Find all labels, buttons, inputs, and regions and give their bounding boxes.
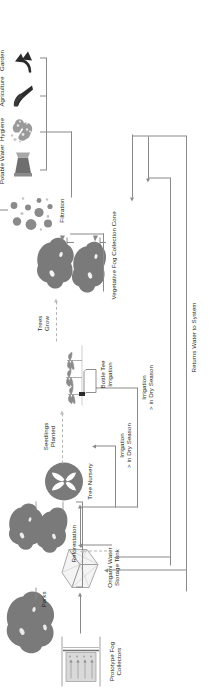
irrigation-branch-2 [137,387,138,507]
label-vegetative-cone: Vegetative Fog Collection Cone [110,191,117,299]
filtration-feed-inner [148,136,149,178]
system-flow-diagram: Prototype Fog Collectors Origami Water S… [0,0,212,697]
group-bracket-stem [82,544,112,545]
flow-tank-to-nursery [80,507,81,547]
arrow-grow-to-reforestation [78,543,82,547]
group-bracket-stem-dashed [84,550,112,551]
label-trees-grow: Trees Grow [36,301,51,345]
washing-hands-icon [10,115,36,143]
arrow-irrigation-1 [92,444,96,448]
label-returns-water: Returns Water to System [190,277,197,397]
flow-seedlings-planted [62,413,63,463]
irrigation-branch-1 [115,445,116,507]
arrow-seedlings-planted [60,410,64,414]
label-bottle-tee: Bottle Tee Irrigation [99,347,114,401]
tree-nursery-seedling-icon [44,461,84,501]
return-line-outer-drop [108,569,186,570]
enduse-icon-agriculture [12,81,34,107]
vegetative-fog-cone-tree-icon [34,233,108,299]
distribution-bracket [46,57,47,170]
distribution-tick-garden [40,57,46,58]
arrow-return-to-tank-outer [104,568,108,572]
enduse-icon-potable-water [12,151,34,177]
node-bottle-tee-irrigation [46,343,98,407]
node-parks [4,587,66,657]
diagram-rotation-frame: Prototype Fog Collectors Origami Water S… [0,0,212,697]
flow-trees-grow [56,301,57,341]
label-filtration: Filtration [58,175,65,245]
distribution-tick-agriculture [40,95,46,96]
arrow-return-to-tank-inner [114,555,118,559]
filtration-feed-outer [132,135,133,197]
label-parks: Parks [40,579,47,619]
return-line-inner [170,177,171,565]
return-line-outer [186,135,187,591]
arrow-filtration-feed-inner [146,178,150,182]
reforestation-trees-icon [6,501,68,557]
group-bracket-left-tick [76,586,82,587]
enduse-icon-hygiene [10,115,36,143]
bottle-tee-irrigation-icon [46,343,98,407]
return-line-outer-riser [132,135,186,136]
label-tree-nursery: Tree Nursery [86,451,93,511]
distribution-bracket-stem [46,131,72,132]
watering-sprout-icon [12,47,34,73]
irrigation-1-riser [96,445,115,446]
label-storage-tank: Origami Water Storage Tank [106,537,121,597]
enduse-icon-garden [12,47,34,73]
node-filtration [8,187,56,233]
cone-collection-crossline [103,233,104,291]
arrow-grow-dashed [80,549,84,553]
flow-collectors-to-tank [80,595,81,633]
return-line-inner-riser [148,177,170,178]
label-garden: Garden [0,37,5,83]
node-tree-nursery [44,461,84,501]
distribution-tick-potable [40,169,46,170]
water-cup-icon [12,151,34,177]
hoe-tool-icon [12,81,34,107]
label-fog-collectors: Prototype Fog Collectors [108,629,123,693]
filtration-output-stem [0,209,8,210]
filtration-particles-icon [8,187,56,233]
filtration-to-distribution [71,131,72,197]
park-tree-icon [4,587,66,657]
arrow-collectors-to-tank [78,592,82,596]
label-reforestation: Reforestation [70,492,77,562]
arrow-filtration-feed-outer [130,197,134,201]
cone-collection-downline [70,233,104,234]
label-irrigation-1: Irrigation > in Dry Season [118,415,133,475]
group-bracket-right-tick [76,501,82,502]
node-reforestation [6,501,68,557]
label-irrigation-2: Irrigation > in Dry Season [140,357,155,417]
return-line-inner-drop [118,556,170,557]
node-vegetative-cone [34,233,108,299]
label-seedlings-planted: Seedlings Planted [42,409,57,463]
